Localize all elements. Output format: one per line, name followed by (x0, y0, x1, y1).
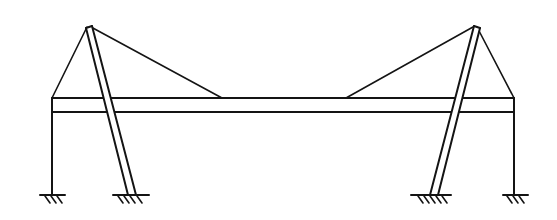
bridge-deck (52, 98, 514, 112)
fixed-support-right-pylon (411, 195, 451, 203)
left-pylon (86, 26, 136, 195)
right-pylon (430, 26, 480, 195)
bridge-structure-diagram (0, 0, 557, 220)
fixed-support-left-pylon (113, 195, 149, 203)
fixed-support-left-column (40, 195, 65, 203)
cable-stays (52, 27, 514, 98)
fixed-support-right-column (503, 195, 528, 203)
